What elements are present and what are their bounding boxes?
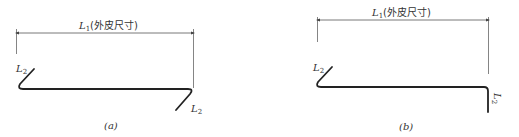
dimension-arrow-left-icon — [316, 19, 320, 22]
hook-label-left: L2 — [15, 63, 27, 76]
dimension-label: L1(外皮尺寸) — [78, 19, 138, 33]
hook-label-right: L2 — [490, 92, 503, 104]
caption-a: (a) — [104, 120, 118, 131]
dimension-arrow-right-icon — [486, 19, 490, 22]
dimension-arrow-left-icon — [15, 32, 19, 35]
figure-b: L1(外皮尺寸) L2 L2 (b) — [312, 6, 503, 132]
rebar-diagram: L1(外皮尺寸) L2 L2 (a) L1(外皮尺寸) L2 L2 (b) — [0, 0, 519, 137]
hook-label-right: L2 — [190, 103, 202, 116]
caption-b: (b) — [399, 121, 413, 132]
rebar-shape — [19, 69, 192, 110]
figure-a: L1(外皮尺寸) L2 L2 (a) — [15, 19, 202, 131]
dimension-label: L1(外皮尺寸) — [371, 6, 431, 20]
rebar-shape — [317, 67, 488, 112]
dimension-arrow-right-icon — [191, 32, 195, 35]
hook-label-left: L2 — [312, 62, 324, 75]
